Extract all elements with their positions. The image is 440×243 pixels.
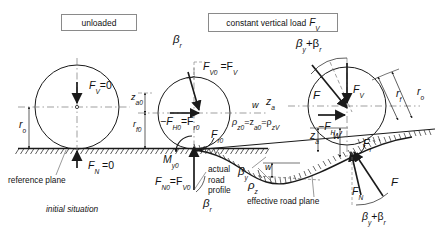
label-fn-zero: FN =0	[88, 160, 114, 171]
caption-actual-line1: actual	[208, 165, 231, 174]
caption-actual-road-profile: actual road profile	[208, 165, 231, 195]
label-fv0-eq-fv: FV0 =FV	[203, 61, 237, 72]
label-r-f-right: rf	[396, 88, 401, 99]
label-m-y0: My0	[163, 154, 179, 165]
label-w-prime-right: w′	[333, 130, 343, 141]
label-beta-y-road: βy	[238, 166, 248, 178]
label-rho-z: ρz	[248, 180, 258, 192]
caption-actual-line3: profile	[208, 186, 231, 195]
label-fv-zero: FV=0	[89, 80, 112, 91]
label-f-v-right: FV	[353, 84, 364, 95]
reference-plane-line	[16, 149, 270, 155]
label-r-o-right: ro	[417, 86, 424, 97]
middle-wheel-loaded	[138, 62, 268, 192]
label-beta-y-plus-beta-r-top: βy+βr	[296, 38, 321, 50]
label-z-a-right: za	[310, 130, 319, 141]
header-box-constant-load: constant vertical load FV	[208, 13, 338, 32]
header-unloaded-label: unloaded	[82, 18, 117, 28]
label-beta-r-top: βr	[173, 34, 182, 46]
label-minus-fh0-eq-fr0: −FH0=Fr0	[160, 116, 199, 127]
label-r-f0: rf0	[133, 120, 142, 129]
label-z-a0: za0	[131, 93, 143, 102]
label-f-resultant-top: F	[313, 90, 320, 102]
label-w-profile: w	[265, 163, 272, 172]
header-constant-load-label: constant vertical load	[226, 18, 306, 28]
label-f-r0: Fr0	[211, 129, 223, 140]
figure-canvas: unloaded constant vertical load FV FV=0 …	[0, 0, 440, 243]
caption-reference-plane: reference plane	[8, 176, 66, 185]
caption-actual-line2: road	[208, 176, 231, 185]
header-fv-symbol: FV	[309, 18, 320, 28]
label-f-right-lower: F	[391, 177, 398, 189]
label-f-n-right: FN	[352, 186, 363, 197]
label-rho-z0-eq-za0-eq-rhozv: ρz0=za0=ρzV	[232, 118, 279, 127]
label-beta-r-bottom: βr	[203, 198, 212, 210]
header-box-unloaded: unloaded	[61, 14, 137, 31]
label-z-a-mid: za	[266, 96, 275, 107]
label-beta-y-plus-beta-r-bottom: βy+βr	[362, 211, 386, 222]
label-w-mid: w	[252, 101, 259, 110]
caption-initial-situation: initial situation	[46, 205, 98, 214]
label-fn0-eq-fv0: FN0=FV0	[155, 176, 190, 187]
label-f-r-right: Fr	[363, 138, 372, 149]
caption-effective-road-plane: effective road plane	[247, 197, 319, 206]
left-wheel-unloaded	[18, 58, 130, 175]
label-r-o-left: ro	[19, 119, 26, 130]
